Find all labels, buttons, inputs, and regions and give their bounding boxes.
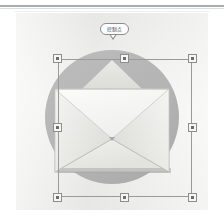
handle-top-center[interactable] bbox=[120, 54, 129, 63]
handle-middle-left[interactable] bbox=[53, 123, 62, 132]
selection-outline bbox=[58, 59, 192, 197]
top-divider-primary bbox=[0, 5, 224, 7]
top-divider-secondary bbox=[0, 8, 224, 9]
screenshot-root: 控制点 bbox=[0, 0, 224, 223]
handle-top-right[interactable] bbox=[188, 54, 197, 63]
control-point-callout: 控制点 bbox=[100, 23, 129, 35]
handle-bottom-left[interactable] bbox=[53, 193, 62, 202]
handle-bottom-center[interactable] bbox=[120, 193, 129, 202]
handle-top-left[interactable] bbox=[53, 54, 62, 63]
top-divider-tertiary bbox=[14, 11, 210, 12]
selection-bounding-box[interactable] bbox=[58, 59, 192, 197]
editor-canvas[interactable] bbox=[16, 13, 208, 210]
callout-label: 控制点 bbox=[107, 27, 121, 32]
handle-middle-right[interactable] bbox=[188, 123, 197, 132]
handle-bottom-right[interactable] bbox=[188, 193, 197, 202]
